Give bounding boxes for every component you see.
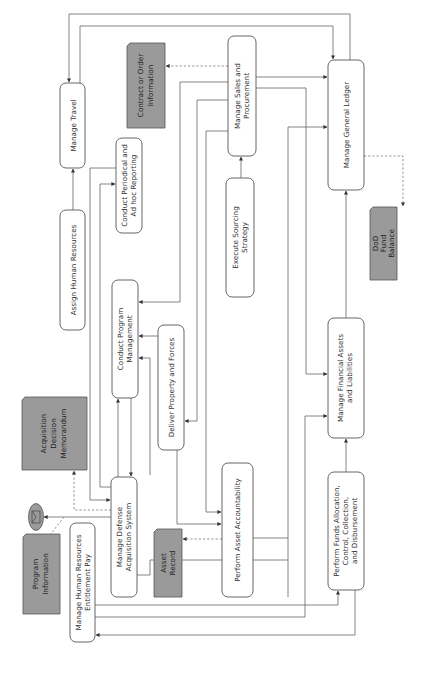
process-flow-diagram: Manage Travel Assign Human Resources Con…	[0, 0, 421, 684]
process-asset-accountability[interactable]: Perform Asset Accountability	[222, 463, 253, 597]
process-periodic-reporting[interactable]: Conduct Periodical and Ad hoc Reporting	[116, 138, 142, 233]
process-deliver-property[interactable]: Deliver Property and Forces	[158, 325, 184, 450]
document-program-information[interactable]: Program Information	[23, 534, 60, 614]
document-asset-record[interactable]: Asset Record	[154, 529, 182, 597]
process-label: Control, Collection,	[341, 497, 350, 565]
document-label: Program	[31, 559, 40, 589]
edge-asset-to-ledger	[288, 127, 327, 597]
document-label: Asset	[159, 553, 168, 573]
process-label: Assign Human Resources	[69, 224, 78, 315]
document-label: Record	[168, 551, 177, 576]
edge-defense-to-memo	[74, 471, 111, 510]
process-label: Procurement	[242, 73, 251, 119]
edge-hr-pay-to-ledger-loop	[95, 600, 305, 617]
process-label: Manage Defense	[115, 506, 124, 567]
process-label: and Disbursement	[350, 498, 359, 564]
edge-ledger-to-travel	[69, 14, 350, 82]
document-label: Memorandum	[59, 408, 68, 458]
process-sales-procurement[interactable]: Manage Sales and Procurement	[228, 36, 256, 156]
document-acquisition-memo[interactable]: Acquisition Decision Memorandum	[22, 397, 87, 470]
process-label: Perform Funds Allocation,	[332, 485, 341, 577]
process-financial-assets[interactable]: Manage Financial Assets and Liabilities	[328, 318, 364, 438]
process-label: and Liabilities	[345, 353, 354, 403]
process-program-management[interactable]: Conduct Program Management	[112, 280, 138, 398]
process-manage-travel[interactable]: Manage Travel	[60, 83, 85, 168]
process-label: Acquisition System	[124, 503, 133, 571]
process-label: Perform Asset Accountability	[233, 478, 242, 582]
process-label: Strategy	[240, 221, 249, 253]
process-label: Manage General Ledger	[342, 82, 351, 168]
process-label: Conduct Program	[116, 308, 125, 370]
process-defense-acquisition[interactable]: Manage Defense Acquisition System	[111, 477, 137, 597]
edge-sales-to-deliver	[185, 100, 228, 421]
edge-deliver-to-asset	[177, 450, 221, 524]
process-label: Manage Sales and	[233, 63, 242, 129]
document-contract-order[interactable]: Contract or Order Information	[127, 43, 165, 128]
process-funds-allocation[interactable]: Perform Funds Allocation, Control, Colle…	[328, 472, 364, 590]
envelope-icon[interactable]	[29, 504, 44, 531]
document-label: Balance	[387, 229, 396, 258]
edge-sales-to-financial	[256, 88, 327, 374]
process-assign-human-resources[interactable]: Assign Human Resources	[60, 210, 85, 330]
edge-ledger-to-fund-balance	[364, 156, 403, 206]
document-label: Acquisition	[39, 414, 48, 453]
process-label: Execute Sourcing	[231, 206, 240, 268]
document-label: Information	[146, 65, 155, 107]
edge-asset-to-program	[139, 358, 150, 475]
process-label: Entitlement Pay	[83, 553, 92, 611]
process-label: Deliver Property and Forces	[167, 337, 176, 437]
process-execute-sourcing[interactable]: Execute Sourcing Strategy	[226, 178, 254, 297]
process-label: Management	[125, 315, 134, 363]
edge-message-to-program-info	[50, 517, 64, 535]
edge-travel-to-ledger	[80, 26, 333, 83]
process-label: Ad hoc Reporting	[129, 155, 138, 217]
process-label: Conduct Periodical and	[120, 144, 129, 227]
edge-into-financial-low	[305, 416, 327, 600]
document-label: Information	[41, 553, 50, 595]
edge-sales-to-asset	[206, 131, 228, 512]
process-label: Manage Human Resources	[74, 534, 83, 630]
process-label: Manage Travel	[69, 99, 78, 151]
document-label: Decision	[49, 418, 58, 449]
document-label: Contract or Order	[136, 54, 145, 117]
process-label: Manage Financial Assets	[336, 334, 345, 422]
process-general-ledger[interactable]: Manage General Ledger	[328, 60, 364, 190]
process-hr-entitlement-pay[interactable]: Manage Human Resources Entitlement Pay	[70, 523, 95, 642]
document-dod-fund-balance[interactable]: DoD Fund Balance	[370, 207, 397, 280]
